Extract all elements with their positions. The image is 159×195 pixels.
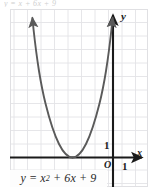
origin-label: O	[104, 160, 111, 170]
x-axis-tick-label-1: 1	[122, 161, 128, 172]
parabola-figure: y = x + 6x + 9	[0, 0, 159, 195]
equation-term2: 6x	[64, 171, 76, 186]
equation-plus-2: +	[76, 171, 90, 186]
equation-caption: y = x2 + 6x + 9	[10, 170, 107, 187]
equation-term3: 9	[90, 171, 96, 186]
top-cropped-caption: y = x + 6x + 9	[4, 0, 156, 7]
y-axis-label: y	[121, 11, 126, 22]
equation-plus-1: +	[50, 171, 64, 186]
equation-equals: =	[26, 171, 40, 186]
x-axis-label: x	[137, 148, 142, 158]
y-axis-tick-label-1: 1	[104, 140, 110, 151]
equation-term1-base: x	[40, 171, 46, 186]
